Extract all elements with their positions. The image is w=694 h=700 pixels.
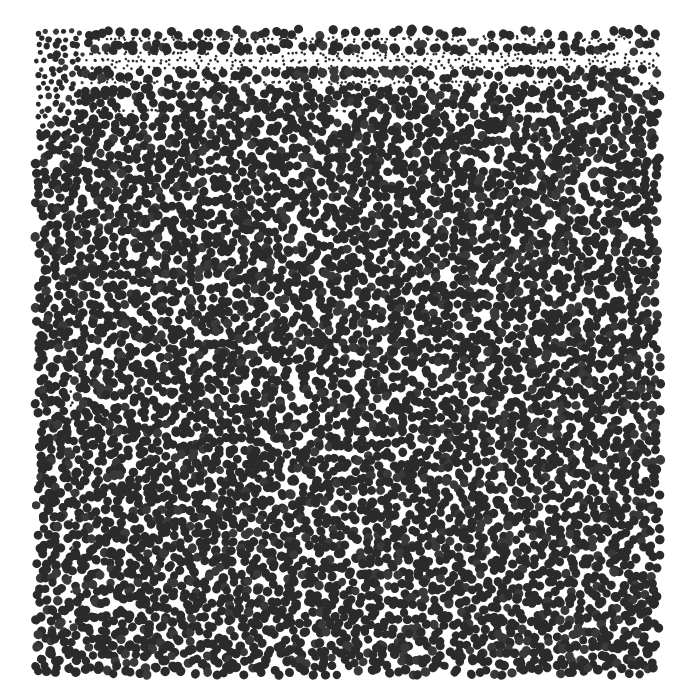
artboard: Stipple Dot Field Dense field of variabl… — [0, 0, 694, 700]
stipple-dot-field — [0, 0, 694, 700]
